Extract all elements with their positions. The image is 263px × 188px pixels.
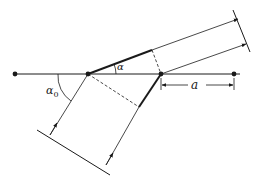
incident-arrow-2 [106,153,113,165]
incident-arrow-1 [50,123,57,135]
exit-ray-2 [161,44,246,74]
incident-path-difference [139,74,161,107]
diffraction-diagram: α0 α a [0,0,263,188]
label-alpha: α [117,61,124,72]
label-alpha0: α0 [46,84,59,99]
exit-wavefront-dashed [152,50,161,74]
source-wavefront [37,130,110,175]
label-spacing-a: a [191,78,198,92]
angle-alpha-arc [114,64,116,74]
atom-far-right [232,72,237,77]
atom-far-left [13,72,18,77]
exit-ray-1 [152,19,238,50]
incident-wavefront-dashed [88,74,139,107]
angle-alpha0-arc [58,74,71,101]
